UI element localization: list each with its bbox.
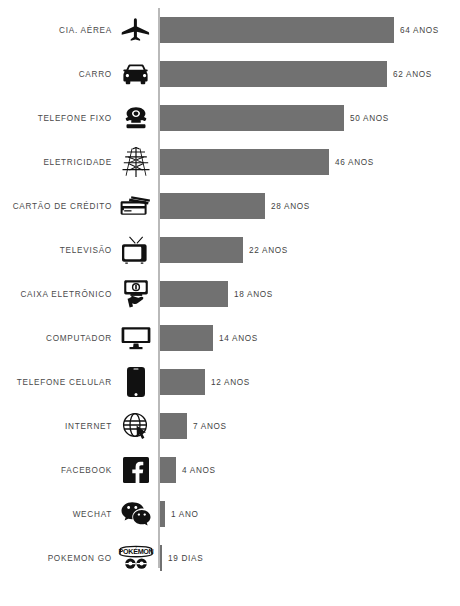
category-label: COMPUTADOR [0, 316, 112, 360]
category-label: WECHAT [0, 492, 112, 536]
credit-card-icon [118, 184, 154, 228]
car-icon [118, 52, 154, 96]
atm-icon [118, 272, 154, 316]
globe-cursor-icon [118, 404, 154, 448]
bar-value-label: 62 ANOS [393, 52, 432, 96]
category-label: POKEMON GO [0, 536, 112, 580]
bar-value-label: 14 ANOS [219, 316, 258, 360]
chart-row: INTERNET7 ANOS [0, 404, 460, 448]
bar [160, 545, 162, 571]
television-icon [118, 228, 154, 272]
category-label: CIA. AÉREA [0, 8, 112, 52]
bar [160, 61, 387, 87]
chart-row: CAIXA ELETRÔNICO18 ANOS [0, 272, 460, 316]
bar-value-label: 64 ANOS [400, 8, 439, 52]
wechat-icon [118, 492, 154, 536]
chart-row: TELEFONE FIXO50 ANOS [0, 96, 460, 140]
bar-value-label: 7 ANOS [193, 404, 227, 448]
category-label: CARRO [0, 52, 112, 96]
landline-phone-icon [118, 96, 154, 140]
bar-value-label: 50 ANOS [350, 96, 389, 140]
smartphone-icon [118, 360, 154, 404]
chart-row: FACEBOOK4 ANOS [0, 448, 460, 492]
bar-value-label: 28 ANOS [271, 184, 310, 228]
bar-value-label: 1 ANO [171, 492, 199, 536]
facebook-icon [118, 448, 154, 492]
chart-row: WECHAT1 ANO [0, 492, 460, 536]
bar [160, 17, 394, 43]
category-label: TELEFONE FIXO [0, 96, 112, 140]
bar-value-label: 19 DIAS [168, 536, 203, 580]
bar-value-label: 46 ANOS [335, 140, 374, 184]
bar [160, 237, 243, 263]
bar [160, 193, 265, 219]
category-label: ELETRICIDADE [0, 140, 112, 184]
bar [160, 149, 329, 175]
bar [160, 413, 187, 439]
bar [160, 325, 213, 351]
svg-text:POKÉMON: POKÉMON [118, 547, 153, 556]
category-label: TELEVISÃO [0, 228, 112, 272]
bar [160, 369, 205, 395]
category-label: TELEFONE CELULAR [0, 360, 112, 404]
airplane-icon [118, 8, 154, 52]
category-label: INTERNET [0, 404, 112, 448]
pokemon-go-icon: POKÉMON [118, 536, 154, 580]
adoption-time-bar-chart: CIA. AÉREA64 ANOSCARRO62 ANOSTELEFONE FI… [0, 0, 460, 606]
chart-row: CARRO62 ANOS [0, 52, 460, 96]
chart-row: COMPUTADOR14 ANOS [0, 316, 460, 360]
desktop-computer-icon [118, 316, 154, 360]
bar [160, 457, 176, 483]
bar [160, 281, 228, 307]
chart-row: POKEMON GOPOKÉMON19 DIAS [0, 536, 460, 580]
bar-value-label: 4 ANOS [182, 448, 216, 492]
chart-row: TELEFONE CELULAR12 ANOS [0, 360, 460, 404]
bar-value-label: 22 ANOS [249, 228, 288, 272]
chart-row: CIA. AÉREA64 ANOS [0, 8, 460, 52]
chart-row: CARTÃO DE CRÉDITO28 ANOS [0, 184, 460, 228]
category-label: CAIXA ELETRÔNICO [0, 272, 112, 316]
chart-row: TELEVISÃO22 ANOS [0, 228, 460, 272]
chart-row: ELETRICIDADE46 ANOS [0, 140, 460, 184]
bar [160, 105, 344, 131]
category-label: CARTÃO DE CRÉDITO [0, 184, 112, 228]
bar [160, 501, 165, 527]
category-label: FACEBOOK [0, 448, 112, 492]
power-pylon-icon [118, 140, 154, 184]
bar-value-label: 18 ANOS [234, 272, 273, 316]
bar-value-label: 12 ANOS [211, 360, 250, 404]
